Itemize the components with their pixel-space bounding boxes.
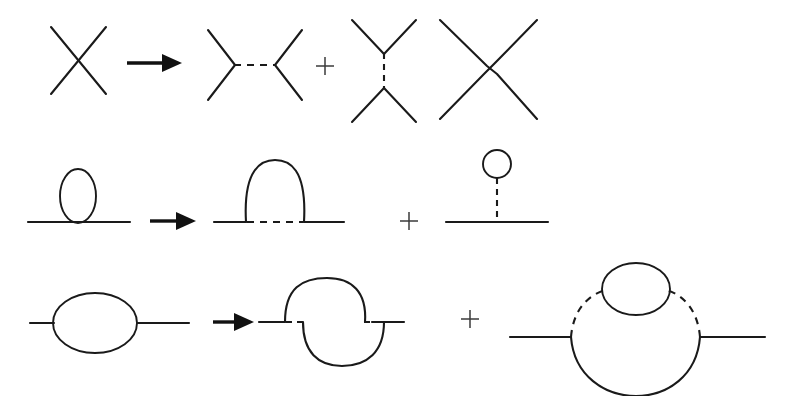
row-contact-vertex <box>51 20 537 122</box>
operator-arrow-row3 <box>213 313 254 331</box>
operator-arrow-row2 <box>150 212 196 230</box>
diagram-crossed-exchange <box>440 20 537 119</box>
diagram-circle-stem-tadpole <box>446 150 548 222</box>
diagram-nested-loop <box>510 263 765 396</box>
diagram-crossed-arcs <box>259 278 404 366</box>
diagram-t-channel-exchange <box>352 20 416 122</box>
diagram-s-channel-exchange <box>208 30 302 100</box>
row-tadpole <box>28 150 548 230</box>
operator-plus-row1 <box>316 57 334 75</box>
feynman-figure-canvas: Perturbative expansion of Feynman diagra… <box>0 0 790 396</box>
operator-arrow-row1 <box>127 54 182 72</box>
feynman-diagram-svg <box>0 0 790 396</box>
diagram-arch-loop <box>214 160 344 222</box>
operator-plus-row2 <box>400 212 418 230</box>
diagram-tadpole-loop <box>28 169 130 223</box>
operator-plus-row3 <box>461 310 479 328</box>
diagram-contact-x-vertex <box>51 27 106 94</box>
diagram-bubble-self-energy <box>30 293 189 353</box>
row-self-energy <box>30 263 765 396</box>
